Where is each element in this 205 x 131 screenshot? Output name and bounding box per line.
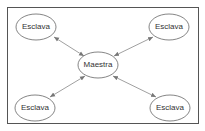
node-label-slave-br: Esclava bbox=[156, 103, 184, 113]
node-label-slave-tr: Esclava bbox=[155, 22, 183, 32]
node-label-slave-bl: Esclava bbox=[21, 103, 49, 113]
edge-master-slave-br bbox=[113, 76, 156, 97]
edge-master-slave-tl bbox=[54, 37, 84, 56]
node-label-master: Maestra bbox=[84, 60, 113, 70]
edge-master-slave-tr bbox=[114, 37, 153, 56]
node-label-slave-tl: Esclava bbox=[22, 22, 50, 32]
edge-master-slave-bl bbox=[50, 76, 85, 97]
